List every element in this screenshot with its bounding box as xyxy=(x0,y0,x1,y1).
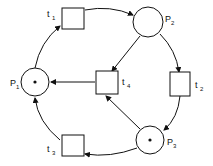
transition-t2: t 2 xyxy=(170,72,204,96)
token xyxy=(148,138,151,141)
place-subscript: 3 xyxy=(173,143,177,149)
place-subscript: 1 xyxy=(16,84,20,90)
arc-p2-t2 xyxy=(160,34,179,72)
arc-p2-t4 xyxy=(112,36,140,71)
transition-subscript: 2 xyxy=(200,86,204,92)
arc-t2-p3 xyxy=(164,96,180,130)
transition-label: t xyxy=(122,77,125,87)
place-p2: P 2 xyxy=(133,7,175,37)
transition-t1: t 1 xyxy=(47,8,84,29)
transition-subscript: 3 xyxy=(52,150,56,156)
place-p3: P 3 xyxy=(136,126,177,154)
arc-t3-p1 xyxy=(35,98,60,140)
transition-label: t xyxy=(195,80,198,90)
arc-p3-t3 xyxy=(85,148,137,155)
transition-subscript: 4 xyxy=(127,83,131,89)
transition-t4: t 4 xyxy=(96,71,131,94)
place-subscript: 2 xyxy=(171,20,175,26)
arc-t1-p2 xyxy=(85,8,133,15)
transition-label: t xyxy=(47,9,50,19)
place-p1: P 1 xyxy=(10,68,49,96)
petri-net-diagram: P 1 P 2 P 3 t 1 t 2 t 3 t 4 xyxy=(0,0,213,166)
transition-subscript: 1 xyxy=(52,15,56,21)
transition-label: t xyxy=(47,144,50,154)
arc-p3-t4 xyxy=(106,96,140,129)
transition-t3: t 3 xyxy=(47,135,84,156)
token xyxy=(33,80,36,83)
arc-p1-t1 xyxy=(35,26,60,68)
